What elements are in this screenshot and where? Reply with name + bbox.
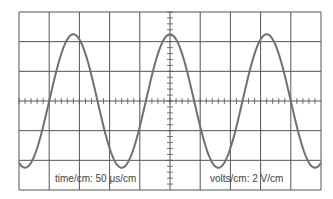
volts-per-div-label: volts/cm: 2 V/cm <box>210 173 283 184</box>
oscilloscope-screen <box>0 0 333 199</box>
time-per-div-label: time/cm: 50 μs/cm <box>55 173 136 184</box>
